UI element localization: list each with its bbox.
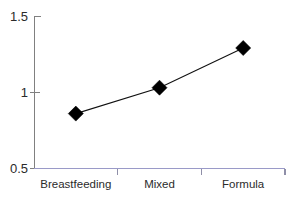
y-axis-label-top: 1.5 xyxy=(10,9,28,24)
x-axis-label-formula: Formula xyxy=(222,178,265,190)
x-axis-label-breastfeeding: Breastfeeding xyxy=(40,178,111,190)
chart-canvas: 1.5 1 0.5 Breastfeeding Mixed Formula xyxy=(0,0,294,198)
y-axis-label-middle: 1 xyxy=(21,85,28,100)
line-chart: 1.5 1 0.5 Breastfeeding Mixed Formula xyxy=(0,0,294,198)
y-axis-label-bottom: 0.5 xyxy=(10,161,28,176)
x-axis-label-mixed: Mixed xyxy=(144,178,175,190)
